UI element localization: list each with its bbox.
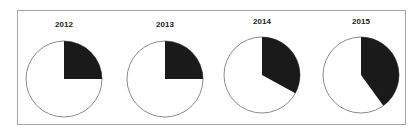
pie-chart-2013 xyxy=(127,41,203,117)
pie-slice-dark xyxy=(64,41,102,79)
pie-title: 2014 xyxy=(232,17,292,26)
pie-title: 2013 xyxy=(135,20,195,29)
pie-chart-2015 xyxy=(323,37,399,113)
pie-chart-2012 xyxy=(26,41,102,117)
pie-slice-dark xyxy=(165,41,203,79)
pie-chart-2014 xyxy=(224,37,300,113)
pie-title: 2012 xyxy=(34,20,94,29)
pie-title: 2015 xyxy=(331,17,391,26)
